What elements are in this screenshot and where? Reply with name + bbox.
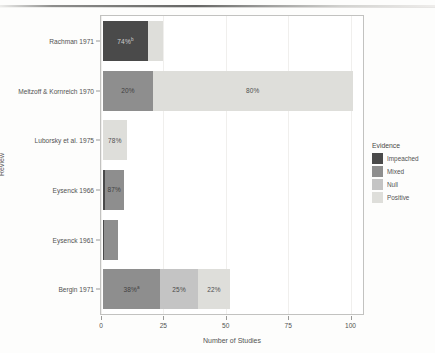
bar-segment: 20%	[103, 71, 153, 111]
legend-label: Null	[387, 181, 398, 188]
legend-item: Impeached	[372, 152, 419, 165]
legend-label: Impeached	[387, 155, 419, 162]
legend-swatch	[372, 166, 383, 177]
legend: Evidence ImpeachedMixedNullPositive	[372, 142, 419, 204]
gridline	[288, 16, 289, 314]
y-axis-tick-label: Eysenck 1966	[53, 186, 94, 193]
legend-swatch	[372, 179, 383, 190]
bar-segment	[104, 220, 117, 260]
y-axis-tick-label: Eysenck 1961	[53, 236, 94, 243]
y-axis-tick	[96, 40, 100, 41]
x-axis-tick	[351, 316, 352, 320]
legend-label: Mixed	[387, 168, 404, 175]
y-axis-tick-label: Bergin 1971	[58, 286, 94, 293]
bar-segment: 38%a	[103, 269, 160, 309]
x-axis-tick-label: 0	[99, 322, 103, 329]
y-axis-tick-label: Meltzoff & Kornreich 1970	[18, 87, 94, 94]
y-axis-tick	[96, 90, 100, 91]
y-axis-tick	[96, 140, 100, 141]
y-axis-tick-label: Luborsky et al. 1975	[35, 137, 94, 144]
y-axis-tick	[96, 189, 100, 190]
bar-segment: 74%b	[103, 21, 148, 61]
x-axis-tick	[163, 316, 164, 320]
gridline	[101, 16, 102, 314]
legend-swatch	[372, 192, 383, 203]
bar-segment: 78%	[103, 120, 127, 160]
bar-segment	[148, 21, 163, 61]
bar-segment: 25%	[160, 269, 197, 309]
bar-segment: 87%	[105, 170, 124, 210]
legend-label: Positive	[387, 194, 409, 201]
legend-item: Positive	[372, 191, 419, 204]
legend-swatch	[372, 153, 383, 164]
plot-area: 74%b20%80%78%87%38%a25%22%	[101, 16, 363, 314]
legend-title: Evidence	[372, 142, 419, 149]
legend-item: Mixed	[372, 165, 419, 178]
x-axis-tick	[226, 316, 227, 320]
x-axis-tick-label: 100	[345, 322, 356, 329]
x-axis-tick-label: 25	[160, 322, 167, 329]
bar-segment: 80%	[153, 71, 353, 111]
x-axis-tick-label: 75	[284, 322, 291, 329]
y-axis-tick	[96, 289, 100, 290]
y-axis-tick-label: Rachman 1971	[49, 37, 94, 44]
legend-items: ImpeachedMixedNullPositive	[372, 152, 419, 204]
scan-artifact-line-secondary	[0, 7, 435, 8]
bar-segment: 22%	[198, 269, 230, 309]
x-axis-tick-label: 50	[222, 322, 229, 329]
gridline	[351, 16, 352, 314]
legend-item: Null	[372, 178, 419, 191]
y-axis-title: Review	[0, 153, 5, 176]
x-axis-title: Number of Studies	[203, 337, 261, 344]
y-axis-tick	[96, 239, 100, 240]
x-axis-tick	[101, 316, 102, 320]
x-axis-tick	[288, 316, 289, 320]
